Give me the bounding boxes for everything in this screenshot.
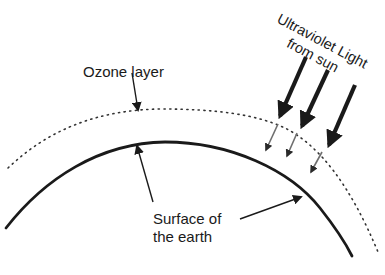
uv-arrows-filtered <box>266 124 322 172</box>
uv-arrow-filtered-2 <box>287 133 297 156</box>
surface-pointer-arrow-right <box>240 197 301 219</box>
earth-surface-label-line2: the earth <box>153 228 212 245</box>
uv-arrow-incoming-3 <box>329 85 355 145</box>
earth-surface-label-line1: Surface of <box>153 210 222 227</box>
uv-light-label: Ultraviolet Light from sun <box>267 11 371 87</box>
uv-arrow-incoming-1 <box>280 57 306 116</box>
ozone-layer-label: Ozone layer <box>83 63 164 80</box>
uv-arrow-filtered-3 <box>311 152 322 172</box>
uv-arrow-filtered-1 <box>266 124 278 150</box>
ozone-diagram: Ozone layer Ultraviolet Light from sun S… <box>0 0 385 275</box>
surface-pointer-arrow-top <box>137 146 153 202</box>
uv-arrow-incoming-2 <box>302 70 328 126</box>
